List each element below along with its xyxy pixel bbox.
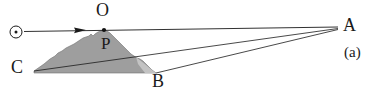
label-point-C: C: [11, 58, 23, 76]
line-B-to-A: [156, 30, 338, 74]
summit-point-marker: [102, 28, 106, 32]
figure-container: O P C B A (a): [0, 0, 381, 104]
solar-ray-arrowhead: [74, 28, 86, 34]
mountain-silhouette: [34, 30, 156, 73]
label-point-B: B: [152, 72, 164, 90]
solar-ray-line: [24, 27, 338, 32]
label-point-A: A: [343, 16, 356, 34]
geometry-diagram: [0, 0, 381, 104]
label-point-P: P: [101, 35, 110, 52]
figure-caption: (a): [344, 45, 361, 60]
label-point-O: O: [96, 1, 109, 19]
sun-icon-center-dot: [15, 31, 18, 34]
